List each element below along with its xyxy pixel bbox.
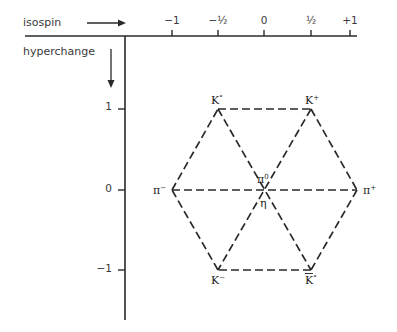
svg-text:K+: K+ (305, 94, 319, 107)
particle-K0-bar: K° (305, 274, 317, 288)
particle-K-plus: K+ (305, 94, 319, 107)
y-tick-label: 0 (105, 182, 112, 194)
particle-eta: η (260, 197, 267, 210)
octet-hexagon (172, 109, 357, 270)
x-tick-label: ½ (306, 14, 316, 26)
particle-K-minus: K− (211, 274, 225, 287)
particle-pi-plus: π+ (363, 184, 376, 197)
svg-text:K°: K° (305, 274, 317, 287)
svg-text:η: η (260, 197, 267, 210)
x-tick-label: +1 (342, 14, 357, 26)
y-tick-label: −1 (97, 262, 112, 274)
x-axis-label: isospin (23, 16, 61, 29)
x-tick-label: −1 (164, 14, 179, 26)
x-tick-label: 0 (261, 14, 268, 26)
particle-K0: K° (211, 94, 223, 107)
y-axis-label: hyperchange (23, 45, 95, 58)
particle-pi-minus: π− (153, 184, 166, 197)
svg-text:π+: π+ (363, 184, 376, 197)
svg-text:K−: K− (211, 274, 225, 287)
svg-text:K°: K° (211, 94, 223, 107)
y-tick-label: 1 (105, 100, 112, 112)
hypercharge-arrow-icon (108, 49, 115, 88)
x-tick-label: −½ (209, 14, 228, 26)
isospin-arrow-icon (87, 20, 126, 27)
svg-text:π−: π− (153, 184, 166, 197)
meson-octet-diagram: isospin hyperchange −1 −½ 0 ½ +1 1 0 −1 … (0, 0, 397, 332)
